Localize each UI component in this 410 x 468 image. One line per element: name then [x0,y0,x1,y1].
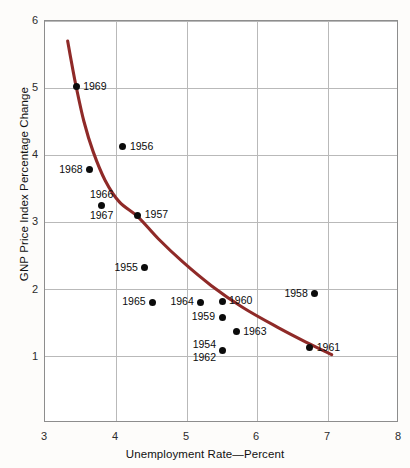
y-tick-6: 6 [10,15,38,26]
plot-area: 1969195619681966196719571955196519641960… [44,20,398,422]
data-point[interactable] [149,299,156,306]
data-point-label: 1959 [190,311,215,322]
phillips-curve-chart: GNP Price Index Percentage Change Unempl… [0,0,410,468]
x-axis-title: Unemployment Rate—Percent [0,448,410,460]
x-tick-3: 3 [32,431,56,442]
x-tick-7: 7 [315,431,339,442]
data-point[interactable] [73,83,80,90]
data-point-label: 1963 [243,326,268,337]
x-tick-6: 6 [244,431,268,442]
data-point-label: 1955 [113,262,138,273]
data-point-label: 1957 [145,209,170,220]
data-point-label: 1958 [283,288,308,299]
y-tick-4: 4 [10,149,38,160]
data-point-label: 1969 [83,81,108,92]
data-point[interactable] [219,314,226,321]
data-point-label: 1967 [89,210,114,221]
x-tick-4: 4 [103,431,127,442]
data-point-label: 1960 [229,295,254,306]
y-tick-1: 1 [10,351,38,362]
x-tick-8: 8 [386,431,410,442]
data-point-label: 1964 [169,296,194,307]
data-point[interactable] [219,298,226,305]
x-tick-5: 5 [174,431,198,442]
data-point[interactable] [98,202,105,209]
data-point-label: 1965 [121,296,146,307]
y-tick-5: 5 [10,82,38,93]
data-point-label: 1962 [191,352,216,363]
data-point[interactable] [219,347,226,354]
y-axis-title: GNP Price Index Percentage Change [18,74,30,294]
data-point-label: 1954 [191,339,216,350]
y-tick-3: 3 [10,216,38,227]
data-point[interactable] [134,212,141,219]
y-tick-2: 2 [10,284,38,295]
data-point-label: 1968 [58,164,83,175]
data-point-label: 1956 [130,141,155,152]
data-point-label: 1961 [317,342,342,353]
data-point-label: 1966 [89,189,114,200]
